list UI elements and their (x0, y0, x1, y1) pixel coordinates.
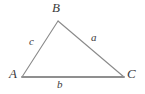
triangle-drawing (0, 0, 145, 94)
vertex-label-b: B (52, 1, 60, 14)
vertex-label-c: C (127, 67, 136, 80)
vertex-label-a: A (9, 67, 17, 80)
triangle-side-bc (58, 21, 124, 77)
side-label-c: c (29, 36, 34, 47)
side-label-a: a (91, 32, 97, 43)
side-label-b: b (57, 79, 63, 90)
triangle-figure: A B C c a b (0, 0, 145, 94)
triangle-side-ab (22, 21, 58, 77)
